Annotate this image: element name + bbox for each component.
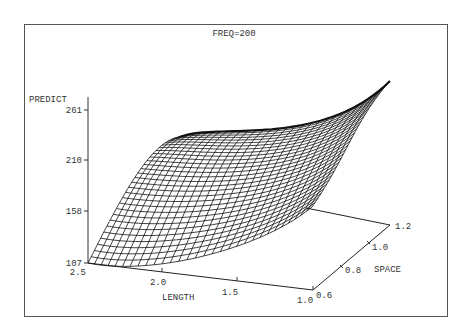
x-axis-label: LENGTH (162, 293, 194, 303)
mesh-line (150, 121, 362, 160)
y-axis (313, 225, 390, 290)
surface-plot: FREQ=200 261 210 158 107 PREDICT 2.5 2.0… (0, 0, 468, 333)
z-tick-label: 158 (66, 207, 82, 217)
y-tick-label: 1.2 (395, 222, 411, 232)
y-axis-label: SPACE (374, 265, 401, 275)
y-tick-label: 1.0 (372, 243, 388, 253)
y-tick-label: 0.8 (345, 266, 361, 276)
z-axis-label: PREDICT (29, 95, 67, 105)
x-tick-label: 1.0 (297, 296, 313, 306)
z-ticks (84, 110, 88, 263)
x-tick-label: 1.5 (222, 288, 238, 298)
back-floor-edge (306, 208, 390, 225)
z-tick-label: 210 (66, 156, 82, 166)
x-ticks (162, 268, 313, 290)
z-tick-label: 261 (66, 106, 82, 116)
y-tick-label: 0.6 (316, 291, 332, 301)
x-axis (88, 263, 313, 290)
mesh-line (301, 94, 376, 216)
surface-mesh (88, 81, 390, 266)
chart-title: FREQ=200 (212, 29, 255, 39)
x-tick-label: 2.0 (150, 278, 166, 288)
mesh-line (312, 81, 390, 207)
x-tick-label: 2.5 (70, 268, 86, 278)
